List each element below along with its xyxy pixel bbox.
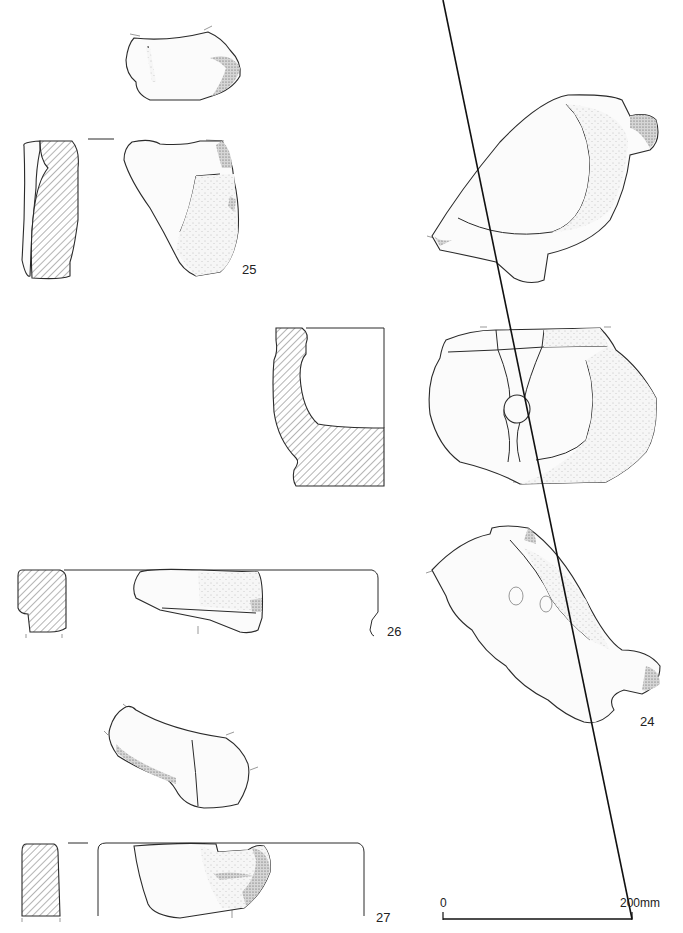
object-26-section bbox=[18, 570, 66, 632]
object-label-26: 26 bbox=[387, 624, 401, 639]
object-27-front-view bbox=[134, 843, 270, 918]
drawing-plate bbox=[0, 0, 683, 933]
object-label-25: 25 bbox=[242, 262, 256, 277]
object-25-section bbox=[22, 139, 114, 279]
scale-end-label: 200mm bbox=[620, 896, 660, 910]
object-27 bbox=[22, 704, 364, 922]
object-25-front-view bbox=[124, 140, 239, 276]
scale-start-label: 0 bbox=[440, 896, 447, 910]
object-26 bbox=[18, 569, 378, 638]
object-24 bbox=[273, 95, 660, 723]
object-24-oblique-view bbox=[426, 526, 660, 723]
object-27-top-view bbox=[104, 704, 258, 808]
object-25-top-view bbox=[126, 26, 240, 100]
object-27-section bbox=[22, 844, 60, 916]
object-24-front-view bbox=[429, 327, 656, 484]
object-label-24: 24 bbox=[640, 714, 654, 729]
object-25 bbox=[22, 26, 240, 279]
object-24-section bbox=[273, 328, 384, 486]
object-26-front-view bbox=[134, 569, 263, 632]
object-24-top-view bbox=[427, 95, 658, 283]
object-label-27: 27 bbox=[376, 910, 390, 925]
